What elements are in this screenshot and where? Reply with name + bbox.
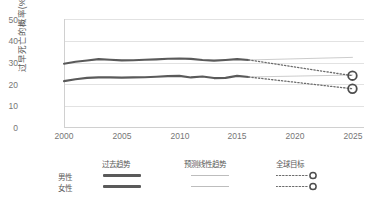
legend-row-label-male: 男性 [58,171,72,182]
x-tick-2015: 2015 [217,131,257,141]
legend-swatch-female-past [103,185,141,188]
x-tick-2025: 2025 [333,131,373,141]
legend-header-target: 全球目标 [276,158,304,169]
y-tick-30: 30 [0,59,18,68]
x-tick-2020: 2020 [275,131,315,141]
series-layer [64,19,364,128]
legend-row-label-female: 女性 [58,182,72,193]
legend-swatch-male-past [103,174,141,177]
y-tick-40: 40 [0,37,18,46]
series-path-2 [249,57,353,60]
series-path-1 [64,76,249,81]
series-path-3 [249,75,353,77]
chart-legend: 过去趋势 预测线性趋势 全球目标 男性 女性 [58,158,368,200]
series-path-4 [249,60,353,76]
legend-header-projected: 预测线性趋势 [184,158,226,169]
target-marker-5 [348,84,357,93]
y-tick-10: 10 [0,102,18,111]
x-tick-2005: 2005 [102,131,142,141]
plot-area [64,19,364,128]
legend-header-past: 过去趋势 [102,158,130,169]
x-tick-2010: 2010 [160,131,200,141]
y-tick-50: 50 [0,16,18,25]
series-path-5 [249,77,353,89]
legend-swatch-female-target [276,182,320,191]
legend-swatch-male-projected [191,175,229,176]
legend-swatch-female-projected [191,186,229,187]
chart-container: 过早死亡的概率(%) 50 40 30 20 10 0 2000 2005 20… [0,0,385,207]
x-tick-2000: 2000 [44,131,84,141]
legend-swatch-male-target [276,171,320,180]
y-tick-20: 20 [0,81,18,90]
series-path-0 [64,58,249,63]
y-tick-0: 0 [0,124,18,133]
